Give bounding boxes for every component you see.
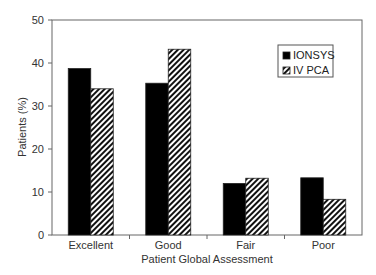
y-tick-label: 20 [32,143,44,155]
y-tick-label: 0 [38,229,44,241]
legend: IONSYSIV PCA [278,45,335,77]
y-tick-label: 50 [32,14,44,26]
y-tick-label: 40 [32,57,44,69]
bar-iv-pca-excellent [91,89,114,235]
x-tick-label: Poor [312,239,336,251]
legend-swatch [283,67,290,74]
bar-iv-pca-good [168,49,191,235]
x-tick-label: Fair [236,239,255,251]
bar-chart: 01020304050 ExcellentGoodFairPoor IONSYS… [0,0,376,275]
y-tick-label: 30 [32,100,44,112]
bar-iv-pca-poor [323,199,346,235]
x-tick-label: Excellent [68,239,113,251]
bar-ionsys-good [146,83,169,235]
y-axis: 01020304050 [32,14,52,241]
x-axis-title: Patient Global Assessment [141,253,272,265]
legend-swatch [283,52,290,59]
bar-ionsys-excellent [68,69,91,235]
x-tick-label: Good [155,239,182,251]
y-tick-label: 10 [32,186,44,198]
bar-ionsys-poor [301,178,324,235]
legend-label: IONSYS [293,49,335,61]
x-axis: ExcellentGoodFairPoor [68,235,335,251]
bar-iv-pca-fair [246,178,269,235]
y-axis-title: Patients (%) [16,97,28,157]
legend-label: IV PCA [293,64,330,76]
bar-ionsys-fair [223,183,246,235]
